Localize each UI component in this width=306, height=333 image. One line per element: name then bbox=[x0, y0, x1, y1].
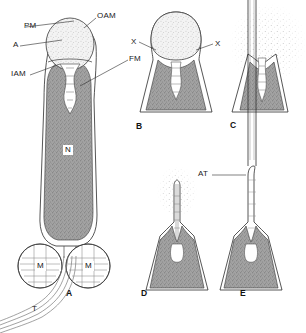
figure-canvas bbox=[0, 0, 306, 333]
label-fm: FM bbox=[129, 55, 141, 63]
panel-label-d: D bbox=[141, 289, 147, 298]
label-at: AT bbox=[198, 170, 208, 178]
label-iam: IAM bbox=[11, 70, 26, 78]
label-a: A bbox=[13, 41, 19, 49]
subacrosomal-vacuole-e bbox=[245, 244, 258, 262]
label-mitochondrion-left: M bbox=[35, 261, 46, 271]
label-pm: PM bbox=[24, 22, 36, 30]
label-x-right: X bbox=[215, 40, 221, 48]
label-tail: T bbox=[32, 305, 37, 313]
panel-d-drawing bbox=[146, 164, 208, 290]
label-nucleus: N bbox=[63, 145, 73, 155]
panel-b-drawing bbox=[139, 12, 213, 112]
panel-c-drawing bbox=[230, 0, 306, 112]
acrosome-b bbox=[151, 12, 201, 60]
label-x-left: X bbox=[131, 38, 137, 46]
panel-a-drawing bbox=[0, 18, 128, 333]
acrosome-reaction-figure: PM OAM A IAM FM N M M T X X AT A B C D E bbox=[0, 0, 306, 333]
label-oam: OAM bbox=[97, 12, 116, 20]
label-mitochondrion-right: M bbox=[83, 261, 94, 271]
subacrosomal-vacuole-d bbox=[171, 244, 184, 262]
panel-label-e: E bbox=[240, 289, 246, 298]
panel-label-b: B bbox=[136, 122, 142, 131]
panel-label-a: A bbox=[66, 289, 72, 298]
panel-label-c: C bbox=[230, 121, 236, 130]
